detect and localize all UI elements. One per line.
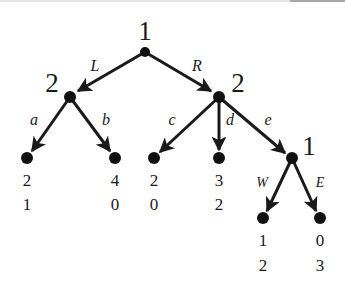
edge-E (292, 158, 316, 211)
right-node (213, 91, 225, 103)
root-node (140, 47, 150, 57)
game-tree: 1 2 2 1 L R a b c d e W E 2 1 4 0 2 0 3 … (0, 0, 345, 292)
leaf-a (21, 152, 33, 164)
edge-W (267, 158, 292, 211)
right-player-label: 2 (231, 68, 245, 98)
payoff-d-1: 3 (215, 171, 224, 190)
payoff-E-1: 0 (316, 231, 325, 250)
payoff-c-1: 2 (150, 171, 159, 190)
action-e-label: e (264, 111, 271, 128)
left-node (64, 91, 76, 103)
payoff-b-1: 4 (111, 171, 120, 190)
payoff-c-2: 0 (150, 195, 159, 214)
leaf-c (148, 152, 160, 164)
leaf-d (213, 152, 225, 164)
root-player-label: 1 (138, 16, 152, 46)
leaf-E (314, 212, 326, 224)
sub-node (286, 152, 298, 164)
action-c-label: c (168, 111, 175, 128)
leaf-W (257, 212, 269, 224)
left-player-label: 2 (45, 68, 59, 98)
action-L-label: L (90, 57, 100, 74)
action-a-label: a (30, 111, 38, 128)
leaf-b (109, 152, 121, 164)
payoff-b-2: 0 (111, 195, 120, 214)
action-d-label: d (226, 111, 235, 128)
action-b-label: b (102, 111, 110, 128)
sub-player-label: 1 (302, 131, 316, 161)
payoff-a-2: 1 (23, 195, 32, 214)
payoff-W-2: 2 (259, 256, 268, 275)
action-E-label: E (315, 175, 325, 190)
payoff-E-2: 3 (316, 256, 325, 275)
payoff-W-1: 1 (259, 231, 268, 250)
payoff-a-1: 2 (23, 171, 32, 190)
action-W-label: W (256, 175, 269, 190)
action-R-label: R (191, 57, 202, 74)
payoff-d-2: 2 (215, 195, 224, 214)
edge-L (78, 52, 145, 91)
